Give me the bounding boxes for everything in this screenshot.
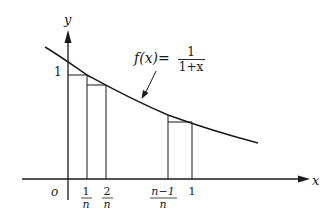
svg-text:2: 2 <box>104 185 111 198</box>
svg-text:1: 1 <box>83 185 90 198</box>
svg-text:n: n <box>159 198 166 211</box>
inscribed-rectangles <box>68 75 192 179</box>
origin-label: o <box>51 185 58 199</box>
function-denominator: 1+x <box>179 60 204 74</box>
y-axis-label: y <box>63 12 72 27</box>
svg-text:n: n <box>82 198 89 211</box>
x-tick-1-over-n: 1 n <box>81 185 92 211</box>
diagram-canvas: f(x)= 1 1+x y x o 1 1 n 2 n n−1 n 1 <box>0 0 325 217</box>
x-tick-2-over-n: 2 n <box>102 185 113 211</box>
x-axis <box>22 176 310 183</box>
y-axis <box>65 30 72 200</box>
svg-text:n−1: n−1 <box>151 185 174 198</box>
x-axis-label: x <box>312 173 320 188</box>
x-axis-arrow-icon <box>298 176 310 183</box>
function-lhs: f(x)= <box>133 50 170 66</box>
y-tick-label: 1 <box>54 65 62 79</box>
y-axis-arrow-icon <box>65 30 72 43</box>
function-numerator: 1 <box>187 45 195 59</box>
svg-text:n: n <box>103 198 110 211</box>
x-tick-1: 1 <box>189 185 196 198</box>
x-tick-n-minus-1-over-n: n−1 n <box>150 185 177 211</box>
pointer-arrow-icon <box>142 90 149 99</box>
label-pointer <box>142 71 157 99</box>
